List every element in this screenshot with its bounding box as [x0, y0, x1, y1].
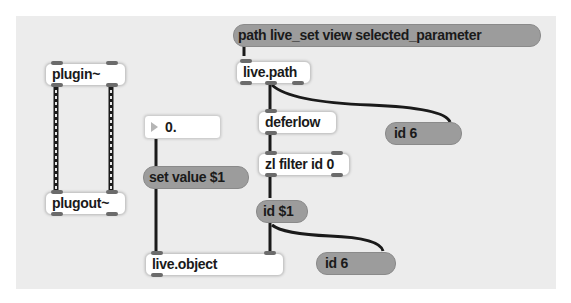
inlet-port[interactable]: [240, 59, 252, 63]
set-value-message[interactable]: set value $1: [143, 166, 249, 189]
outlet-port[interactable]: [265, 81, 277, 85]
number-box[interactable]: 0.: [144, 115, 221, 139]
outlet-port[interactable]: [331, 173, 343, 177]
inlet-port[interactable]: [106, 61, 118, 65]
id-6-message-bottom[interactable]: id 6: [316, 252, 396, 275]
live-object-label: live.object: [152, 256, 217, 272]
outlet-port[interactable]: [106, 83, 118, 87]
inlet-port[interactable]: [51, 61, 63, 65]
plugout-object[interactable]: plugout~: [45, 192, 126, 215]
outlet-port[interactable]: [292, 81, 304, 85]
inlet-port[interactable]: [265, 109, 277, 113]
inlet-port[interactable]: [151, 251, 163, 255]
id-6-label: id 6: [325, 255, 348, 271]
outlet-port[interactable]: [265, 131, 277, 135]
id-6-label: id 6: [394, 125, 417, 141]
inlet-port[interactable]: [265, 151, 277, 155]
triangle-icon: [151, 122, 158, 132]
live-path-label: live.path: [243, 64, 297, 80]
number-value: 0.: [165, 119, 177, 135]
id-dollar-label: id $1: [263, 203, 293, 219]
live-object-object[interactable]: live.object: [145, 253, 284, 276]
outlet-port[interactable]: [265, 173, 277, 177]
deferlow-label: deferlow: [265, 114, 320, 130]
inlet-port[interactable]: [51, 190, 63, 194]
plugout-label: plugout~: [52, 195, 109, 211]
inlet-port[interactable]: [106, 190, 118, 194]
path-message-label: path live_set view selected_parameter: [238, 27, 481, 43]
id-dollar-message[interactable]: id $1: [256, 200, 308, 223]
outlet-port[interactable]: [106, 212, 118, 216]
inlet-port[interactable]: [264, 251, 276, 255]
plugin-label: plugin~: [52, 66, 100, 82]
cord-iddollar-to-id6[interactable]: [272, 225, 383, 251]
outlet-port[interactable]: [240, 81, 252, 85]
deferlow-object[interactable]: deferlow: [258, 111, 337, 134]
outlet-port[interactable]: [151, 273, 163, 277]
inlet-port[interactable]: [331, 151, 343, 155]
live-path-object[interactable]: live.path: [236, 61, 311, 84]
zl-filter-object[interactable]: zl filter id 0: [258, 153, 350, 176]
path-message[interactable]: path live_set view selected_parameter: [233, 24, 541, 47]
set-value-label: set value $1: [149, 169, 225, 185]
id-6-message-top[interactable]: id 6: [385, 122, 462, 145]
plugin-object[interactable]: plugin~: [45, 63, 126, 86]
zl-filter-label: zl filter id 0: [265, 156, 334, 172]
outlet-port[interactable]: [51, 83, 63, 87]
outlet-port[interactable]: [51, 212, 63, 216]
